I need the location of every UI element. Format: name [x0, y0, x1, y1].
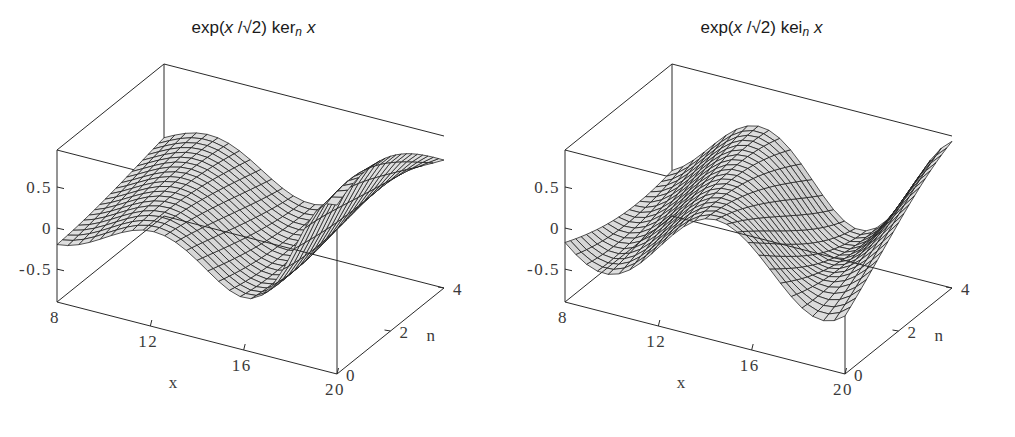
n-tick-label: 2: [908, 323, 918, 342]
figure-root: exp(x /√2) kernx -0.500.58121620x024n ex…: [0, 0, 1015, 437]
n-tick-label: 0: [854, 366, 864, 385]
n-tick-label: 4: [961, 280, 971, 299]
n-axis-label: n: [934, 326, 943, 345]
x-axis-label: x: [677, 373, 686, 392]
plot-panel-left: exp(x /√2) kernx -0.500.58121620x024n: [0, 0, 507, 437]
x-tick-label: 8: [558, 308, 568, 327]
x-tick-label: 20: [325, 380, 345, 399]
x-tick-label: 20: [833, 380, 853, 399]
plot-panel-right: exp(x /√2) keinx -0.500.58121620x024n: [508, 0, 1015, 437]
z-tick-label: 0.5: [534, 178, 560, 197]
z-tick-label: 0: [42, 219, 52, 238]
n-axis-label: n: [426, 326, 435, 345]
x-tick-label: 12: [138, 332, 158, 351]
n-tick-label: 2: [400, 323, 410, 342]
x-tick-label: 8: [50, 308, 60, 327]
n-tick-label: 0: [346, 366, 356, 385]
x-tick-label: 12: [646, 332, 666, 351]
surface-plot-left: -0.500.58121620x024n: [0, 0, 507, 437]
z-tick-label: 0.5: [26, 178, 52, 197]
z-tick-label: -0.5: [527, 260, 560, 279]
n-tick-label: 4: [453, 280, 463, 299]
surface-plot-right: -0.500.58121620x024n: [508, 0, 1015, 437]
x-axis-label: x: [169, 373, 178, 392]
z-tick-label: 0: [550, 219, 560, 238]
z-tick-label: -0.5: [19, 260, 52, 279]
x-tick-label: 16: [740, 356, 760, 375]
x-tick-label: 16: [232, 356, 252, 375]
